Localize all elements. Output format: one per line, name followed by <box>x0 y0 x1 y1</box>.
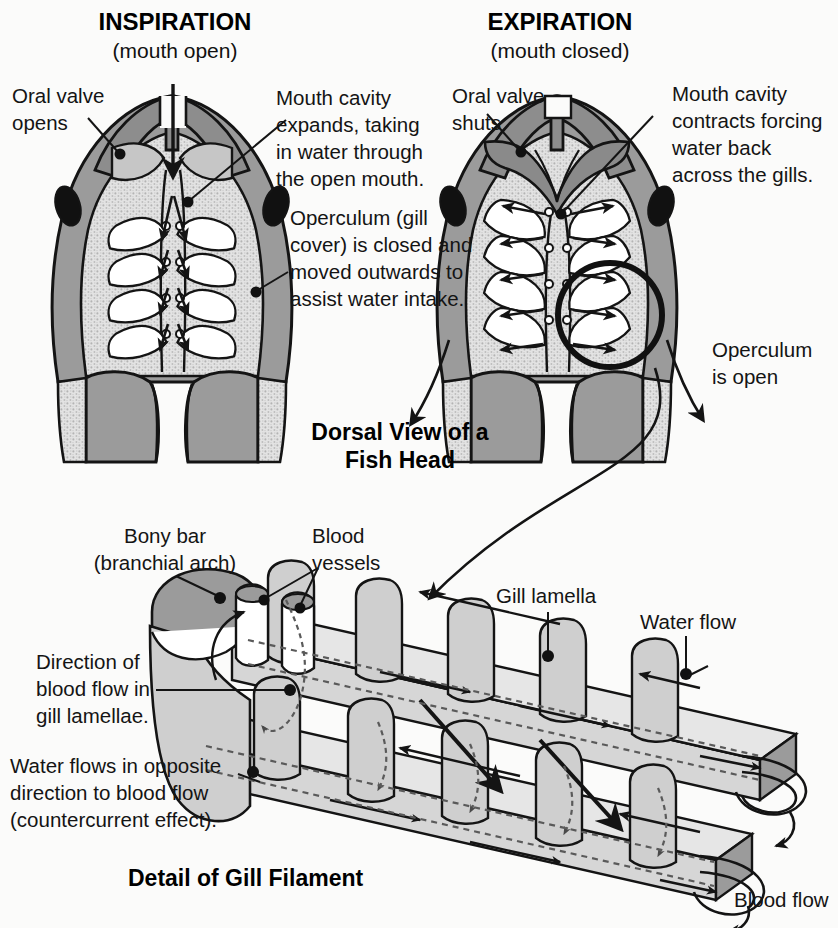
label-countercurrent: Water flows in opposite direction to blo… <box>10 752 280 833</box>
heading-detail-gill-filament: Detail of Gill Filament <box>128 864 448 892</box>
label-blood-vessels: Blood vessels <box>312 522 432 576</box>
label-gill-lamella: Gill lamella <box>496 582 656 609</box>
label-direction-blood-flow: Direction of blood flow in gill lamellae… <box>36 648 216 729</box>
figure-canvas: INSPIRATION (mouth open) EXPIRATION (mou… <box>0 0 838 928</box>
label-operculum-open: Operculum is open <box>712 336 838 390</box>
label-mouth-cavity-expands: Mouth cavity expands, taking in water th… <box>276 84 476 192</box>
heading-dorsal-view: Dorsal View of a Fish Head <box>290 418 510 474</box>
fish-head-inspiration <box>51 84 293 462</box>
panel-title-expiration: EXPIRATION <box>435 8 685 36</box>
panel-subtitle-inspiration: (mouth open) <box>50 38 300 64</box>
label-oral-valve-shuts: Oral valve shuts <box>452 82 612 136</box>
label-oral-valve-opens: Oral valve opens <box>12 82 172 136</box>
label-water-flow: Water flow <box>640 608 790 635</box>
panel-title-inspiration: INSPIRATION <box>50 8 300 36</box>
label-operculum-closed: Operculum (gill cover) is closed and mov… <box>290 204 500 312</box>
label-bony-bar: Bony bar (branchial arch) <box>50 522 280 576</box>
label-blood-flow: Blood flow <box>734 886 838 913</box>
label-mouth-cavity-contracts: Mouth cavity contracts forcing water bac… <box>672 80 838 188</box>
panel-subtitle-expiration: (mouth closed) <box>435 38 685 64</box>
